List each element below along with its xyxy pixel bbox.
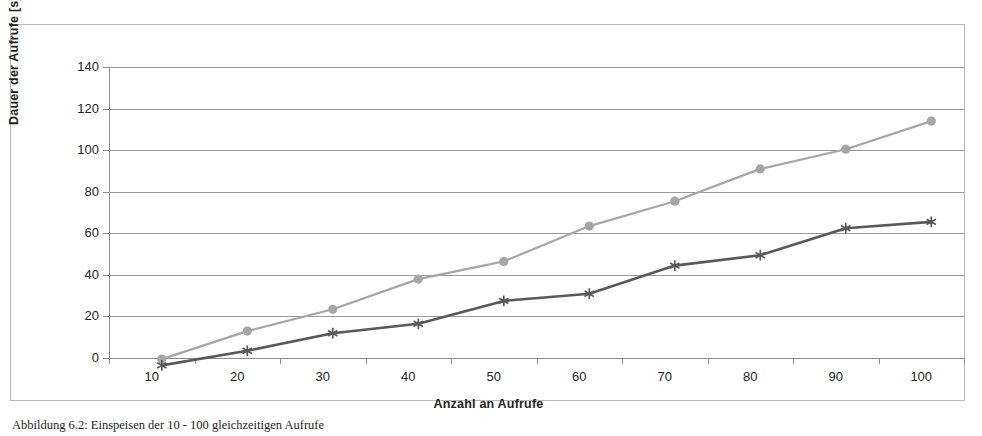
series-circle bbox=[157, 117, 936, 364]
x-axis-tick bbox=[109, 358, 110, 364]
data-point-marker-star bbox=[927, 217, 936, 228]
gridline bbox=[109, 67, 964, 68]
x-axis-tick bbox=[793, 358, 794, 364]
x-axis-tick bbox=[451, 358, 452, 364]
y-axis-tick bbox=[103, 150, 109, 151]
series-star bbox=[157, 217, 936, 371]
y-axis-tick-label: 120 bbox=[43, 102, 99, 115]
x-axis-tick-label: 70 bbox=[635, 370, 695, 384]
x-axis-title: Anzahl an Aufrufe bbox=[11, 397, 966, 411]
gridline bbox=[109, 109, 964, 110]
x-axis-tick bbox=[879, 358, 880, 364]
y-axis-tick bbox=[103, 67, 109, 68]
gridline bbox=[109, 233, 964, 234]
y-axis-tick-label: 80 bbox=[43, 185, 99, 198]
x-axis-tick bbox=[537, 358, 538, 364]
x-axis-tick bbox=[708, 358, 709, 364]
y-axis-tick bbox=[103, 316, 109, 317]
y-axis-tick bbox=[103, 275, 109, 276]
series-line bbox=[162, 121, 932, 359]
data-point-marker-star bbox=[585, 288, 594, 299]
data-point-marker-star bbox=[670, 260, 679, 271]
data-point-marker-circle bbox=[157, 355, 166, 364]
x-axis-tick bbox=[622, 358, 623, 364]
y-axis-tick-label: 20 bbox=[43, 309, 99, 322]
figure-caption: Abbildung 6.2: Einspeisen der 10 - 100 g… bbox=[12, 418, 324, 433]
x-axis-tick-label: 50 bbox=[464, 370, 524, 384]
y-axis-title: Dauer der Aufrufe [s] bbox=[7, 0, 21, 125]
data-point-marker-circle bbox=[585, 222, 594, 231]
x-axis-tick bbox=[366, 358, 367, 364]
data-point-marker-star bbox=[756, 250, 765, 261]
x-axis-tick-label: 90 bbox=[806, 370, 866, 384]
x-axis-tick bbox=[195, 358, 196, 364]
y-axis-tick bbox=[103, 192, 109, 193]
y-axis-tick-label: 40 bbox=[43, 268, 99, 281]
chart-frame: Dauer der Aufrufe [s] 020406080100120140… bbox=[10, 24, 965, 401]
gridline bbox=[109, 150, 964, 151]
data-point-marker-circle bbox=[499, 257, 508, 266]
data-point-marker-star bbox=[414, 318, 423, 329]
x-axis-tick-label: 40 bbox=[378, 370, 438, 384]
x-axis-tick-label: 80 bbox=[720, 370, 780, 384]
gridline bbox=[109, 192, 964, 193]
data-point-marker-circle bbox=[328, 305, 337, 314]
y-axis-tick-label: 100 bbox=[43, 143, 99, 156]
x-axis-tick-label: 20 bbox=[207, 370, 267, 384]
data-point-marker-circle bbox=[756, 164, 765, 173]
x-axis-tick bbox=[964, 358, 965, 364]
y-axis-tick-label: 60 bbox=[43, 226, 99, 239]
gridline bbox=[109, 316, 964, 317]
y-axis-tick-label: 0 bbox=[43, 351, 99, 364]
gridline bbox=[109, 275, 964, 276]
data-point-marker-star bbox=[243, 345, 252, 356]
y-axis-tick bbox=[103, 233, 109, 234]
data-point-marker-star bbox=[841, 223, 850, 234]
x-axis-tick-label: 10 bbox=[122, 370, 182, 384]
x-axis-tick-label: 100 bbox=[891, 370, 951, 384]
x-axis-tick-label: 60 bbox=[549, 370, 609, 384]
x-axis-tick-label: 30 bbox=[293, 370, 353, 384]
data-point-marker-circle bbox=[670, 197, 679, 206]
data-point-marker-circle bbox=[927, 117, 936, 126]
data-point-marker-circle bbox=[243, 327, 252, 336]
y-axis-tick-label: 140 bbox=[43, 60, 99, 73]
data-point-marker-star bbox=[328, 328, 337, 339]
y-axis-tick bbox=[103, 109, 109, 110]
data-point-marker-star bbox=[499, 296, 508, 307]
x-axis-tick bbox=[280, 358, 281, 364]
series-line bbox=[162, 222, 932, 366]
